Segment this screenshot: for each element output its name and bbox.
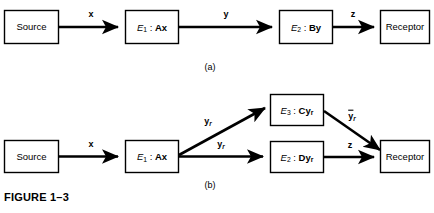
node-source-b-label: Source — [16, 151, 46, 162]
edge-label-yr-lower-b: yr — [217, 139, 225, 150]
node-e2-b-label: E2 : Dyr — [281, 151, 314, 163]
node-e1-a-expression: Ax — [155, 21, 168, 32]
node-e3-b-expression-sub: r — [311, 109, 314, 116]
node-e1-b[interactable]: E1 : Ax — [126, 141, 179, 173]
figure-caption: FIGURE 1–3 — [4, 191, 69, 203]
node-e1-b-expression: Ax — [155, 151, 168, 162]
node-e2-b-expression: Dy — [299, 151, 312, 162]
node-e3-b-label: E3 : Cyr — [281, 104, 314, 116]
panel-b: Source x E1 : Ax yr E3 : Cyr yr — [5, 95, 430, 191]
edge-label-ybar-sub: r — [353, 115, 356, 122]
edge-label-ybar-r-b: yr — [348, 110, 356, 122]
node-e1-a-label: E1 : Ax — [137, 21, 168, 33]
node-receptor-b-label: Receptor — [386, 151, 425, 162]
node-e3-b-expression: Cy — [299, 104, 312, 115]
node-source-b[interactable]: Source — [5, 141, 59, 173]
node-source-a-label: Source — [16, 21, 46, 32]
figure-container: Source x E1 : Ax y E2 : By z — [0, 0, 434, 213]
svg-text:yr: yr — [348, 111, 356, 122]
edge-label-y-a: y — [223, 9, 228, 19]
node-e2-b[interactable]: E2 : Dyr — [271, 142, 324, 173]
panel-a: Source x E1 : Ax y E2 : By z — [5, 9, 430, 72]
node-e1-a[interactable]: E1 : Ax — [126, 11, 179, 44]
node-source-a[interactable]: Source — [5, 11, 59, 44]
edge-label-x-a: x — [88, 9, 93, 19]
node-receptor-a-label: Receptor — [386, 21, 425, 32]
node-receptor-b[interactable]: Receptor — [381, 141, 430, 173]
panel-a-label: (a) — [205, 62, 216, 72]
edge-label-z-b: z — [348, 140, 353, 150]
node-e2-a[interactable]: E2 : By — [280, 11, 333, 44]
node-e1-b-label: E1 : Ax — [137, 151, 168, 163]
edge-label-z-a: z — [351, 9, 356, 19]
node-receptor-a[interactable]: Receptor — [381, 11, 430, 44]
node-e2-b-expression-sub: r — [311, 156, 314, 163]
node-e2-a-label: E2 : By — [291, 21, 322, 33]
edge-label-x-b: x — [88, 139, 93, 149]
panel-b-label: (b) — [205, 180, 216, 190]
edge-label-yr-upper-b: yr — [204, 116, 212, 127]
figure-diagram: Source x E1 : Ax y E2 : By z — [0, 0, 434, 213]
node-e2-a-expression: By — [309, 21, 322, 32]
node-e3-b[interactable]: E3 : Cyr — [271, 95, 324, 126]
